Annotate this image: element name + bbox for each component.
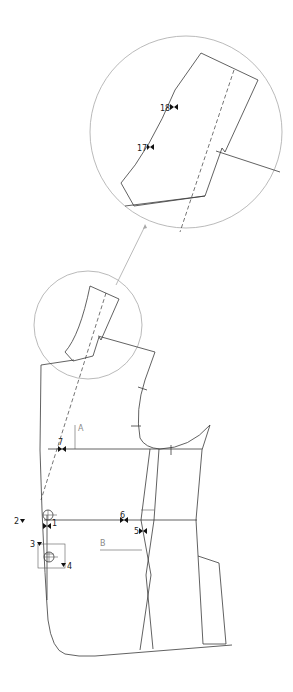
label-4: 4 xyxy=(67,562,72,571)
label-a: A xyxy=(78,424,84,433)
label-3: 3 xyxy=(30,540,35,549)
side-seam xyxy=(196,450,203,644)
label-2: 2 xyxy=(14,517,19,526)
label-5: 5 xyxy=(134,527,139,536)
front-edge-hem xyxy=(40,365,232,656)
label-7: 7 xyxy=(58,438,63,447)
pocket-box xyxy=(38,544,65,568)
label-1: 1 xyxy=(52,519,57,528)
arrow-head-icon xyxy=(143,224,147,229)
dart-right-leg xyxy=(146,449,159,649)
detail-roll-line xyxy=(180,70,234,232)
label-b: B xyxy=(100,539,106,548)
lapel-piece xyxy=(65,286,119,361)
detail-lapel-outline xyxy=(121,53,258,206)
pattern-diagram: 18 17 A xyxy=(0,0,293,692)
button-marker-2-icon xyxy=(44,552,58,562)
detail-view: 18 17 xyxy=(90,36,282,232)
label-18: 18 xyxy=(160,104,170,113)
notch-marker-18-icon xyxy=(170,104,178,110)
main-pattern: A B 7 1 2 3 4 6 5 xyxy=(14,286,232,656)
zoom-region-circle xyxy=(34,271,142,379)
neckline xyxy=(41,360,74,365)
label-17: 17 xyxy=(137,144,147,153)
detail-circle xyxy=(90,36,282,228)
roll-line xyxy=(41,293,106,500)
marker-2-icon xyxy=(20,519,25,523)
detail-connector xyxy=(116,224,147,285)
connector-line xyxy=(116,226,145,285)
detail-shoulder-line xyxy=(216,151,280,172)
shoulder-armhole xyxy=(98,336,210,450)
detail-neck-line xyxy=(125,196,205,206)
